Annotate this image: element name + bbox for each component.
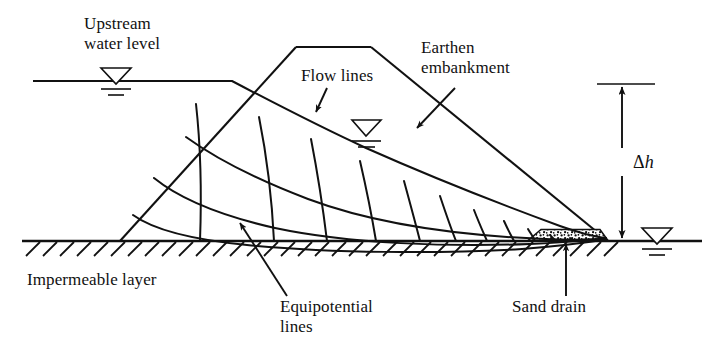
delta-h-label: Δh [633, 152, 654, 172]
equipotential-lines-label: Equipotential lines [280, 297, 373, 337]
flow-lines-label: Flow lines [301, 66, 373, 86]
earthen-embankment-label: Earthen embankment [421, 38, 510, 78]
figure-root: Upstream water level Flow lines Earthen … [0, 0, 710, 355]
h-symbol: h [645, 152, 654, 172]
equipotential-7 [474, 210, 487, 241]
equipotential-3 [311, 139, 327, 241]
flow-line-4 [133, 215, 606, 252]
flow-lines-group [133, 81, 606, 252]
equipotential-1 [196, 104, 201, 241]
equipotential-lines-leader [240, 223, 287, 296]
impermeable-layer [22, 241, 702, 256]
flow-line-1-phreatic [232, 81, 606, 238]
sand-drain-label: Sand drain [512, 297, 586, 317]
upstream-water-surface [33, 68, 232, 95]
equipotential-6 [440, 196, 456, 241]
earthen-embankment-leader [417, 88, 455, 128]
equipotential-4 [360, 161, 376, 241]
equipotential-5 [404, 181, 420, 241]
upstream-water-level-label: Upstream water level [84, 14, 160, 54]
delta-symbol: Δ [633, 152, 645, 172]
flow-lines-leader [316, 88, 327, 112]
impermeable-layer-label: Impermeable layer [27, 270, 157, 290]
